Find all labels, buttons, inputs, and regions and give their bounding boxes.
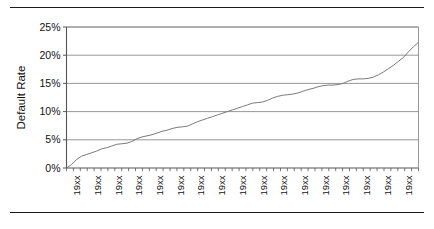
y-tick-label: 25% (39, 21, 60, 33)
x-tick-label: 19xx (195, 175, 206, 195)
x-tick-label: 19xx (299, 175, 310, 195)
x-tick-label: 19xx (361, 175, 372, 195)
x-tick-label: 19xx (278, 175, 289, 195)
y-tick-label: 15% (39, 77, 60, 89)
x-tick-label: 19xx (216, 175, 227, 195)
x-tick-label: 19xx (320, 175, 331, 195)
x-tick-label: 19xx (154, 175, 165, 195)
series-group (67, 42, 419, 168)
figure-page: 0%5%10%15%20%25% 19xx19xx19xx19xx19xx19x… (0, 0, 434, 229)
y-axis-title-group: Default Rate (15, 66, 27, 130)
y-tick-label: 0% (45, 162, 60, 174)
x-tick-label: 19xx (258, 175, 269, 195)
y-tick-label: 5% (45, 133, 60, 145)
cropped-title-remnant (0, 0, 434, 6)
series-line (67, 42, 419, 168)
x-tick-label: 19xx (237, 175, 248, 195)
chart-svg: 0%5%10%15%20%25% 19xx19xx19xx19xx19xx19x… (0, 12, 434, 210)
x-tick-label: 19xx (382, 175, 393, 195)
x-tick-label: 19xx (113, 175, 124, 195)
x-tick-labels-group: 19xx19xx19xx19xx19xx19xx19xx19xx19xx19xx… (71, 175, 413, 195)
x-tick-label: 19xx (340, 175, 351, 195)
gridlines-group (67, 27, 419, 140)
y-tick-label: 10% (39, 105, 60, 117)
x-tick-label: 19xx (133, 175, 144, 195)
x-tick-label: 19xx (403, 175, 414, 195)
x-tick-label: 19xx (175, 175, 186, 195)
default-rate-line-chart: 0%5%10%15%20%25% 19xx19xx19xx19xx19xx19x… (0, 12, 434, 210)
y-axis-title: Default Rate (15, 66, 27, 130)
y-tick-labels-group: 0%5%10%15%20%25% (39, 21, 60, 174)
figure-top-rule (10, 7, 424, 8)
figure-bottom-rule (10, 212, 424, 213)
plot-frame (67, 27, 419, 168)
x-tick-label: 19xx (71, 175, 82, 195)
x-tick-label: 19xx (92, 175, 103, 195)
y-tick-label: 20% (39, 49, 60, 61)
